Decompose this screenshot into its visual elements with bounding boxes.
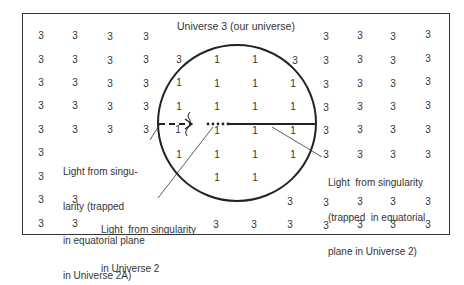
annotation-bottom: Light from singularity in Universe 2 [101, 197, 196, 285]
dashed-arrow-icon [159, 119, 192, 129]
leader-line-bottom [158, 127, 213, 198]
annotation-right: Light from singularity (trapped in equat… [328, 154, 425, 281]
singularity-dots [207, 123, 230, 126]
